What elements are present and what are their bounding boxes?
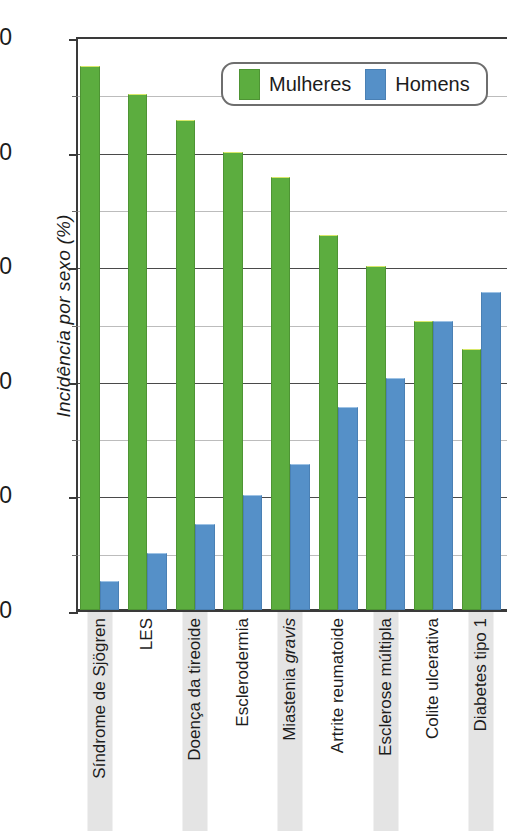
legend: Mulheres Homens: [221, 62, 488, 106]
category-label-6: Artrite reumatoide: [314, 612, 362, 831]
legend-label-mulheres: Mulheres: [269, 73, 351, 96]
category-label-text: Artrite reumatoide: [328, 618, 348, 753]
y-tick-label: 40: [0, 367, 12, 394]
category-label-text: Esclerodermia: [233, 618, 253, 727]
bar-homens: [147, 553, 167, 610]
bar-slot: [176, 37, 196, 610]
y-tick-label: 80: [0, 138, 12, 165]
bar-mulheres: [414, 321, 434, 610]
bar-chart: Incidência por sexo (%) Mulheres Homens …: [0, 0, 528, 831]
category-label-3: Doença da tireoide: [171, 612, 219, 831]
bar-homens: [338, 407, 358, 610]
bar-homens: [290, 464, 310, 610]
category-label-text: Colite ulcerativa: [423, 618, 443, 739]
bar-slot: [481, 37, 501, 610]
bar-mulheres: [366, 266, 386, 610]
bar-homens: [195, 524, 215, 610]
bar-slot: [433, 37, 453, 610]
legend-item-mulheres: Mulheres: [239, 69, 351, 100]
category-label-4: Esclerodermia: [219, 612, 267, 831]
category-label-text: Síndrome de Sjögren: [90, 618, 110, 779]
blue-swatch-icon: [365, 69, 386, 100]
bar-group: [362, 37, 410, 610]
bar-slot: [366, 37, 386, 610]
bar-slot: [271, 37, 291, 610]
category-label-text: Diabetes tipo 1: [471, 618, 491, 731]
bar-slot: [290, 37, 310, 610]
y-tick-label: 100: [0, 24, 12, 51]
bar-slot: [223, 37, 243, 610]
category-labels: Síndrome de SjögrenLESDoença da tireoide…: [76, 612, 505, 831]
bar-slot: [414, 37, 434, 610]
bar-slot: [147, 37, 167, 610]
bar-homens: [481, 292, 501, 610]
bar-slot: [128, 37, 148, 610]
category-label-8: Colite ulcerativa: [410, 612, 458, 831]
bar-mulheres: [319, 235, 339, 610]
bar-group: [76, 37, 124, 610]
bar-group: [124, 37, 172, 610]
legend-label-homens: Homens: [395, 73, 469, 96]
category-label-2: LES: [124, 612, 172, 831]
category-label-7: Esclerose múltipla: [362, 612, 410, 831]
bar-mulheres: [80, 66, 100, 610]
category-label-9: Diabetes tipo 1: [457, 612, 505, 831]
bar-slot: [100, 37, 120, 610]
bar-homens: [386, 378, 406, 610]
bar-slot: [195, 37, 215, 610]
green-swatch-icon: [239, 69, 260, 100]
category-label-text: Esclerose múltipla: [376, 618, 396, 756]
bar-group: [267, 37, 315, 610]
bar-group: [457, 37, 505, 610]
bar-mulheres: [271, 177, 291, 610]
bar-homens: [100, 581, 120, 610]
category-label-text: Miastenia gravis: [280, 618, 300, 741]
bar-mulheres: [128, 94, 148, 610]
bar-mulheres: [176, 120, 196, 610]
bar-slot: [243, 37, 263, 610]
bar-mulheres: [223, 152, 243, 610]
bars-layer: [76, 37, 505, 610]
y-tick-label: 0: [0, 597, 12, 624]
bar-slot: [462, 37, 482, 610]
bar-slot: [319, 37, 339, 610]
y-tick-label: 60: [0, 253, 12, 280]
bar-group: [219, 37, 267, 610]
category-label-text: LES: [137, 618, 157, 650]
bar-mulheres: [462, 349, 482, 610]
category-label-1: Síndrome de Sjögren: [76, 612, 124, 831]
bar-slot: [80, 37, 100, 610]
legend-item-homens: Homens: [365, 69, 469, 100]
bar-group: [171, 37, 219, 610]
bar-homens: [243, 495, 263, 610]
category-label-5: Miastenia gravis: [267, 612, 315, 831]
bar-group: [314, 37, 362, 610]
bar-slot: [386, 37, 406, 610]
bar-slot: [338, 37, 358, 610]
bar-group: [410, 37, 458, 610]
y-tick-label: 20: [0, 482, 12, 509]
bar-homens: [433, 321, 453, 610]
category-label-text: Doença da tireoide: [185, 618, 205, 761]
